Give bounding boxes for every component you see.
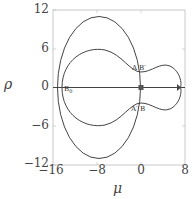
label-b-prime: B′ [139,64,146,72]
y-tick-0: 0 [19,79,49,93]
x-tick-neg16: −16 [36,163,66,177]
x-tick-0: 0 [126,163,156,177]
label-b0: B0 [64,85,72,94]
x-tick-neg8: −8 [82,163,112,177]
y-tick-12: 12 [19,2,49,16]
y-axis-title: ρ [4,76,12,92]
y-tick-6: 6 [19,41,49,55]
label-a-prime: A′ [130,105,138,113]
origin-marker [139,85,144,90]
x-tick-8: 8 [170,163,195,177]
label-b: B [140,105,145,113]
x-axis-title: μ [113,180,122,196]
y-tick-neg6: −6 [19,118,49,132]
right-endpoint-marker [177,84,181,91]
label-a: A [131,64,138,72]
